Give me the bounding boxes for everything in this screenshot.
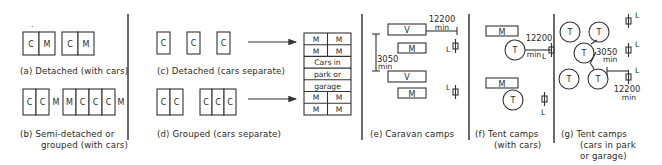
- caravan-label: C: [227, 98, 233, 107]
- caption-g-line2: (cars in park: [580, 140, 636, 150]
- caption-c: (c) Detached (cars separate): [157, 66, 285, 76]
- latrine-icon: L: [626, 11, 640, 28]
- caption-a: (a) Detached (with cars): [20, 66, 128, 76]
- caravan-label: C: [106, 98, 112, 107]
- latrine-label: L: [446, 83, 451, 92]
- car-label: M: [409, 90, 416, 99]
- dimension-unit: min: [622, 93, 637, 102]
- car-label: M: [336, 93, 343, 102]
- car-park-block: M M M M Cars in park or garage M M M M: [304, 33, 351, 115]
- dimension-unit: min: [603, 55, 618, 64]
- car-label: M: [118, 98, 125, 107]
- car-label: M: [336, 47, 343, 56]
- tent-label: T: [581, 49, 587, 58]
- car-label: M: [336, 35, 343, 44]
- caravan-label: C: [67, 40, 73, 49]
- tent-label: T: [596, 28, 602, 37]
- car-label: M: [499, 28, 506, 37]
- dimension-unit: min: [435, 23, 450, 32]
- tent-label: T: [510, 96, 516, 105]
- car-label: M: [313, 93, 320, 102]
- car-label: M: [66, 98, 73, 107]
- car-label: M: [499, 80, 506, 89]
- tent-label: T: [512, 46, 518, 55]
- caption-f-line2: (with cars): [494, 140, 541, 150]
- unit-pair: C M: [62, 32, 94, 55]
- van-label: V: [404, 73, 410, 82]
- caravan-label: C: [161, 98, 167, 107]
- panel-c-detached-cars-separate: C C C (c) Detached (cars separate): [157, 32, 296, 76]
- panel-e-caravan-camps: V M V M 12200 min 3050 min L L (e) Carav…: [370, 14, 458, 139]
- caravan-label: C: [191, 39, 197, 48]
- caption-f-line1: (f) Tent camps: [475, 129, 539, 139]
- car-label: M: [409, 45, 416, 54]
- latrine-label: L: [446, 45, 451, 54]
- latrine-label: L: [635, 66, 640, 75]
- caption-g-line3: or garage): [580, 151, 627, 161]
- caption-g-line1: (g) Tent camps: [561, 129, 627, 139]
- caravan-label: C: [80, 98, 86, 107]
- panel-b-semi-detached: C C M M C C C M (b) Semi-detached or gro…: [20, 89, 128, 150]
- caravan-label: C: [215, 98, 221, 107]
- latrine-icon: L: [446, 39, 458, 54]
- car-label: M: [83, 40, 90, 49]
- caravan-label: C: [93, 98, 99, 107]
- car-label: M: [313, 47, 320, 56]
- latrine-label: L: [542, 52, 547, 61]
- latrine-icon: L: [541, 92, 547, 117]
- dimension-unit: min: [527, 50, 542, 59]
- car-label: M: [313, 35, 320, 44]
- tent-label: T: [567, 28, 573, 37]
- latrine-icon: L: [626, 66, 640, 84]
- dimension-unit: min: [378, 62, 393, 71]
- caravan-label: C: [174, 98, 180, 107]
- panel-a-detached-with-cars: . C M C M (a) Detached (with cars): [20, 20, 128, 76]
- car-park-text: garage: [314, 82, 341, 91]
- car-label: M: [53, 98, 60, 107]
- latrine-label: L: [635, 11, 640, 20]
- tent-label: T: [595, 75, 601, 84]
- dimension-value: 12200: [526, 33, 553, 43]
- van-label: V: [404, 26, 410, 35]
- panel-d-grouped-cars-separate: C C C C C (d) Grouped (cars separate): [157, 89, 296, 139]
- panel-f-tent-camps-with-cars: M T 12200 min L M T L (f) Tent camps (wi…: [475, 26, 554, 150]
- caption-b-line2: grouped (with cars): [41, 140, 128, 150]
- car-label: M: [313, 105, 320, 114]
- car-park-text: Cars in: [314, 58, 341, 67]
- unit-pair: C M: [23, 32, 55, 55]
- car-label: M: [336, 105, 343, 114]
- car-label: M: [44, 40, 51, 49]
- caravan-label: C: [28, 40, 34, 49]
- latrine-icon: L: [626, 40, 640, 57]
- caravan-label: C: [161, 39, 167, 48]
- panel-g-tent-camps-cars-in-park: T T T T T 3050 min 12200 min L L: [559, 11, 640, 161]
- site-layout-diagram: . C M C M (a) Detached (with cars) C C M…: [0, 0, 662, 165]
- caption-d: (d) Grouped (cars separate): [157, 129, 281, 139]
- latrine-label: L: [541, 108, 546, 117]
- caravan-label: C: [221, 39, 227, 48]
- caravan-label: C: [27, 98, 33, 107]
- tent-label: T: [566, 75, 572, 84]
- caption-b-line1: (b) Semi-detached or: [20, 129, 115, 139]
- latrine-label: L: [635, 40, 640, 49]
- stray-mark: .: [31, 20, 33, 29]
- caravan-label: C: [40, 98, 46, 107]
- latrine-icon: L: [446, 83, 458, 99]
- caravan-label: C: [203, 98, 209, 107]
- car-park-text: park or: [314, 70, 342, 79]
- latrine-icon: L: [542, 43, 554, 61]
- caption-e: (e) Caravan camps: [370, 129, 455, 139]
